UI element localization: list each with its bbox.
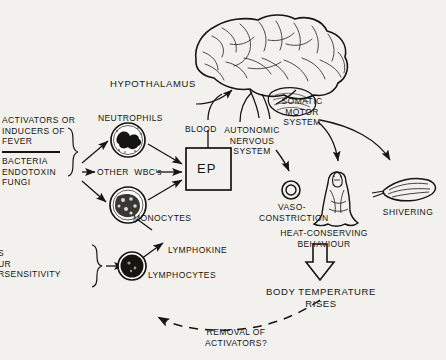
activators-brace-lower [92, 245, 102, 287]
somatic-motor-system-label: SOMATIC MOTOR SYSTEM [272, 96, 332, 128]
lymphocyte-cell-icon [118, 252, 146, 280]
arrow-activators-to-monocytes [82, 181, 106, 202]
activators-divider [2, 151, 60, 153]
lymphocytes-label: LYMPHOCYTES [148, 270, 216, 281]
block-arrow-down-icon [306, 244, 334, 280]
autonomic-nervous-system-label: AUTONOMIC NERVOUS SYSTEM [218, 125, 286, 157]
fever-pathway-diagram: HYPOTHALAMUS ACTIVATORS OR INDUCERS OF F… [0, 0, 446, 360]
lymphokine-label: LYMPHOKINE [168, 245, 227, 256]
arrow-lymphocytes-to-lymphokine [141, 243, 163, 259]
blood-label: BLOOD [185, 124, 217, 135]
arrow-sms-to-heat-conserving [318, 122, 338, 161]
arrow-neutrophils-to-ep [148, 144, 182, 164]
arrow-activators-to-neutrophils [82, 141, 108, 163]
constricted-vessel-icon [282, 181, 300, 199]
activators-group-b-label: S UR RSENSITIVITY [0, 248, 61, 280]
body-temperature-rises-label: BODY TEMPERATURE RISES [252, 286, 390, 310]
neutrophils-label: NEUTROPHILS [98, 113, 163, 124]
vasoconstriction-label: VASO- CONSTRICTION [259, 202, 325, 223]
other-wbcs-label: OTHER WBC's [97, 167, 162, 178]
monocytes-label: MONOCYTES [133, 213, 191, 224]
hypothalamus-label: HYPOTHALAMUS [110, 78, 196, 90]
heat-conserving-behaviour-label: HEAT-CONSERVING BEHAVIOUR [272, 228, 376, 249]
neutrophil-cell-icon [111, 123, 145, 157]
removal-of-activators-label: REMOVAL OF ACTIVATORS? [186, 327, 286, 348]
activators-header-label: ACTIVATORS OR INDUCERS OF FEVER [2, 115, 75, 147]
muscle-icon [372, 178, 435, 200]
shivering-label: SHIVERING [378, 207, 438, 218]
autonomic-connector-line [240, 92, 252, 122]
arrow-monocytes-to-ep [148, 180, 182, 200]
activators-group-a-label: BACTERIA ENDOTOXIN FUNGI [2, 156, 56, 188]
ep-label: EP [197, 163, 216, 175]
